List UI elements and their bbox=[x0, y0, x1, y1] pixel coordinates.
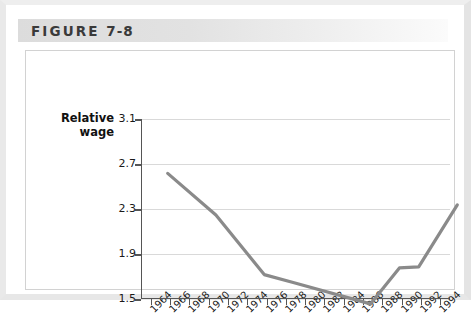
y-tick-label: 2.7 bbox=[110, 157, 136, 170]
y-axis-title-line2: wage bbox=[46, 126, 114, 140]
figure-label: FIGURE 7-8 bbox=[31, 23, 134, 39]
y-axis-title-line1: Relative bbox=[46, 112, 114, 126]
plot-area bbox=[141, 119, 450, 299]
figure-label-number: 7-8 bbox=[106, 23, 133, 39]
y-tick-label: 2.3 bbox=[110, 202, 136, 215]
chart-panel: Relative wage 1.51.92.32.73.1 1964196619… bbox=[25, 50, 455, 290]
y-tick-label: 1.9 bbox=[110, 247, 136, 260]
y-tick-label: 1.5 bbox=[110, 292, 136, 305]
y-tick-label: 3.1 bbox=[110, 112, 136, 125]
figure-card: FIGURE 7-8 Relative wage 1.51.92.32.73.1… bbox=[8, 8, 459, 290]
figure-label-prefix: FIGURE bbox=[31, 23, 100, 39]
y-axis-title: Relative wage bbox=[46, 112, 114, 139]
